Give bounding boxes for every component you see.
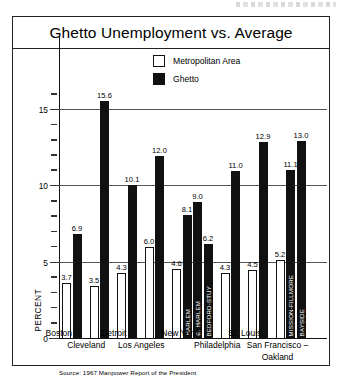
chart-source: Source: 1967 Manpower Report of the Pres… xyxy=(59,369,196,376)
bar-ghetto-6-0 xyxy=(259,142,268,339)
value-label-metro-2: 4.3 xyxy=(116,263,127,272)
y-tick-major-15 xyxy=(50,109,59,110)
value-label-metro-1: 3.5 xyxy=(89,276,100,285)
y-tick-minor-13 xyxy=(51,139,57,141)
x-axis-label-new-york: New York xyxy=(161,328,197,338)
value-label-ghetto-0-0: 6.9 xyxy=(72,224,83,233)
value-label-metro-3: 6.0 xyxy=(144,237,155,246)
x-axis-label-st-louis: St. Louis xyxy=(228,328,261,338)
bar-ghetto-0-0 xyxy=(73,234,82,339)
y-tick-minor-1 xyxy=(51,322,57,324)
y-tick-label-5: 5 xyxy=(43,258,48,268)
bar-ghetto-1-0 xyxy=(100,101,109,339)
value-label-ghetto-6-0: 12.9 xyxy=(256,132,271,141)
bar-ghetto-2-0 xyxy=(128,185,137,339)
value-label-ghetto-4-1: 9.0 xyxy=(192,192,203,201)
value-label-ghetto-3-0: 12.0 xyxy=(152,146,167,155)
y-tick-major-0 xyxy=(50,338,59,339)
y-tick-minor-8 xyxy=(51,215,57,217)
x-axis-label-boston: Boston xyxy=(46,328,72,338)
value-label-metro-4: 4.6 xyxy=(171,259,182,268)
chart-title-bar: Ghetto Unemployment vs. Average xyxy=(13,17,329,49)
legend-swatch-metropolitan-area xyxy=(153,55,165,67)
bar-ghetto-5-0 xyxy=(231,171,240,339)
y-axis-line xyxy=(59,37,60,339)
x-axis-label-san-francisco-oakland: San Francisco – xyxy=(247,340,308,350)
bar-inline-label-4-2: BEDFORD-STUY xyxy=(205,286,212,336)
value-label-ghetto-4-0: 8.1 xyxy=(182,205,193,214)
value-label-ghetto-1-0: 15.6 xyxy=(97,91,112,100)
x-axis-label-cleveland: Cleveland xyxy=(67,340,105,350)
value-label-ghetto-2-0: 10.1 xyxy=(125,175,140,184)
y-tick-major-10 xyxy=(50,185,59,186)
bar-metro-7 xyxy=(276,260,285,339)
plot-area: 0510153.76.93.515.64.310.16.012.04.68.1H… xyxy=(59,77,327,339)
y-tick-minor-6 xyxy=(51,246,57,248)
value-label-ghetto-7-0: 11.1 xyxy=(283,160,297,169)
y-axis-title: PERCENT xyxy=(33,289,43,332)
x-axis-label-los-angeles: Los Angeles xyxy=(118,340,164,350)
value-label-metro-7: 5.2 xyxy=(275,250,286,259)
y-tick-minor-4 xyxy=(51,276,57,278)
y-tick-minor-9 xyxy=(51,200,57,202)
value-label-ghetto-5-0: 11.0 xyxy=(228,161,242,170)
chart-title: Ghetto Unemployment vs. Average xyxy=(49,24,292,42)
value-label-ghetto-4-2: 6.2 xyxy=(203,234,214,243)
value-label-metro-6: 4.5 xyxy=(247,260,258,269)
scan-artifact xyxy=(236,2,336,7)
bar-metro-1 xyxy=(90,286,99,339)
bar-ghetto-3-0 xyxy=(155,156,164,339)
x-axis-label-philadelphia: Philadelphia xyxy=(194,340,240,350)
y-tick-minor-11 xyxy=(51,169,57,171)
y-tick-minor-3 xyxy=(51,292,57,294)
value-label-ghetto-7-1: 13.0 xyxy=(294,131,309,140)
bar-inline-label-7-0: MISSION-FILLMORE xyxy=(287,275,294,336)
chart-frame: Ghetto Unemployment vs. Average Metropol… xyxy=(12,16,330,366)
bar-metro-3 xyxy=(145,247,154,339)
y-tick-minor-2 xyxy=(51,307,57,309)
x-axis-label-san-francisco-oakland: Oakland xyxy=(262,352,294,362)
y-tick-minor-16 xyxy=(51,93,57,95)
legend-label-metropolitan-area: Metropolitan Area xyxy=(173,56,240,66)
y-tick-minor-14 xyxy=(51,124,57,126)
y-tick-label-10: 10 xyxy=(39,181,48,191)
chart-screenshot: Ghetto Unemployment vs. Average Metropol… xyxy=(0,0,343,385)
y-tick-label-15: 15 xyxy=(39,105,48,115)
value-label-metro-0: 3.7 xyxy=(61,273,72,282)
y-tick-minor-7 xyxy=(51,231,57,233)
legend-item-metropolitan-area: Metropolitan Area xyxy=(153,53,240,68)
y-tick-minor-12 xyxy=(51,154,57,156)
x-axis-label-detroit: Detroit xyxy=(101,328,126,338)
y-tick-major-5 xyxy=(50,262,59,263)
bar-inline-label-7-1: BAYSIDE xyxy=(298,309,305,336)
value-label-metro-5: 4.3 xyxy=(220,263,231,272)
